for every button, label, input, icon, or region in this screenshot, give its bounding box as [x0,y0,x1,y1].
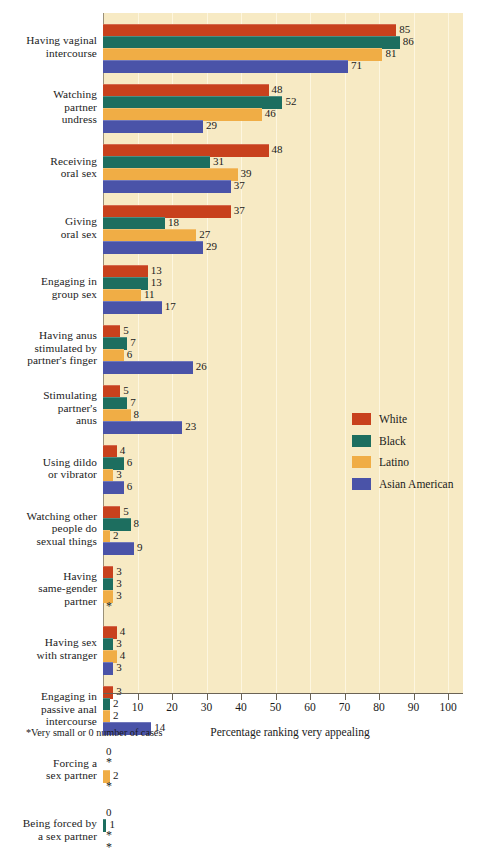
category-label-line: Engaging in [0,690,97,703]
category-label: Having vaginalintercourse [0,34,97,59]
bar-value-label: 48 [272,143,283,156]
category-label-line: Having [0,570,97,583]
category-label-line: Being forced by [0,817,97,830]
category-label-line: oral sex [0,167,97,180]
x-axis-line [103,693,463,694]
bar-latino: 4 [103,650,463,662]
category-label: Engaging inpassive analintercourse [0,690,97,728]
category-label-line: Having sex [0,636,97,649]
bar-asian-american: 71 [103,60,463,72]
bar-group: Watching otherpeople dosexual things5829 [0,506,478,554]
bar-value-label: 26 [196,360,207,373]
bar-value-label: 37 [234,204,245,217]
bar-white: 5 [103,325,463,337]
category-label-line: Stimulating [0,389,97,402]
bar-asian-american: * [103,782,463,794]
bar-white: 0 [103,807,463,819]
bar-group: Receivingoral sex48313937 [0,144,478,192]
bar-value-label: 31 [213,155,224,168]
legend-item-black[interactable]: Black [352,431,453,448]
bar-white: 48 [103,144,463,156]
bar-latino: 2 [103,530,463,542]
bar-asian-american: 26 [103,361,463,373]
x-tick-100 [448,693,449,700]
bar-value-label: 37 [234,179,245,192]
bar-asian-american: * [103,843,463,852]
category-label: Being forced bya sex partner [0,817,97,842]
x-tick-90 [414,693,415,700]
category-label-line: or vibrator [0,468,97,481]
legend-item-white[interactable]: White [352,409,453,426]
bar-group: Engaging ingroup sex13131117 [0,265,478,313]
bar-value-label: * [106,756,112,769]
category-label: Having anusstimulated bypartner's finger [0,329,97,367]
bar-value-label: 18 [168,216,179,229]
bar-value-label: 48 [272,83,283,96]
x-tick-label: 100 [428,701,468,713]
legend-item-latino[interactable]: Latino [352,452,453,469]
legend-label: Latino [379,456,409,468]
bar-asian-american: 29 [103,120,463,132]
category-label-line: Watching [0,88,97,101]
bar-black: * [103,758,463,770]
category-label-line: people do [0,522,97,535]
bar-value-label: 29 [206,119,217,132]
category-label-line: undress [0,113,97,126]
category-label: Havingsame-genderpartner [0,570,97,608]
category-label: Watching otherpeople dosexual things [0,510,97,548]
bar-value-label: * [106,841,112,852]
category-label: Engaging ingroup sex [0,275,97,300]
bar-group: Givingoral sex37182729 [0,205,478,253]
bar-value-label: 3 [116,589,122,602]
category-label-line: sexual things [0,535,97,548]
bar-group: Watchingpartnerundress48524629 [0,84,478,132]
bar-rect [103,180,231,193]
category-label-line: Forcing a [0,757,97,770]
bar-white: 4 [103,626,463,638]
bar-asian-american: 29 [103,241,463,253]
bar-value-label: 81 [385,47,396,60]
x-tick-80 [379,693,380,700]
category-label-line: Using dildo [0,456,97,469]
bar-group: Having vaginalintercourse85868171 [0,24,478,72]
bar-latino: 6 [103,349,463,361]
legend-label: Black [379,435,406,447]
bar-value-label: 4 [120,444,126,457]
bar-value-label: 71 [351,59,362,72]
bar-value-label: 8 [134,408,140,421]
bar-value-label: * [106,780,112,793]
legend-label: White [379,413,407,425]
bar-rect [103,481,124,494]
bar-latino: * [103,831,463,843]
bar-value-label: 2 [113,529,119,542]
category-label-line: anus [0,414,97,427]
category-label-line: Having vaginal [0,34,97,47]
bar-latino: 81 [103,48,463,60]
legend-item-asian-american[interactable]: Asian American [352,474,453,491]
category-label-line: partner's finger [0,354,97,367]
category-label: Having sexwith stranger [0,636,97,661]
bar-black: 31 [103,156,463,168]
chart-footnote: *Very small or 0 number of cases [26,727,162,738]
bar-value-label: 17 [165,300,176,313]
category-label-line: a sex partner [0,830,97,843]
bar-value-label: 5 [123,324,129,337]
bar-group: Havingsame-genderpartner333* [0,566,478,614]
bar-value-label: 2 [113,769,119,782]
bar-white: 5 [103,385,463,397]
x-tick-60 [310,693,311,700]
bar-latino: 2 [103,770,463,782]
category-label: Stimulatingpartner'sanus [0,389,97,427]
bar-value-label: 86 [403,35,414,48]
bar-value-label: 8 [134,517,140,530]
bar-asian-american: 37 [103,180,463,192]
bar-latino: 3 [103,590,463,602]
category-label: Receivingoral sex [0,155,97,180]
bar-asian-american: 3 [103,662,463,674]
bar-black: 86 [103,36,463,48]
bar-black: 1 [103,819,463,831]
category-label-line: stimulated by [0,342,97,355]
bar-rect [103,241,203,254]
bar-value-label: 6 [127,348,133,361]
category-label-line: partner [0,595,97,608]
